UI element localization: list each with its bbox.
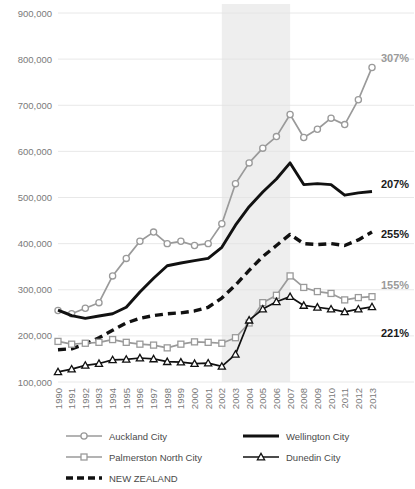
data-point-marker [300,302,307,308]
y-axis-tick-label: 900,000 [18,8,52,19]
circle-marker [81,433,87,439]
data-point-marker [82,362,89,368]
x-axis-tick-label: 2000 [189,388,200,409]
data-point-marker [110,337,116,343]
data-point-marker [257,453,264,459]
data-point-marker [110,273,116,279]
square-marker [192,339,198,345]
circle-marker [123,255,129,261]
circle-marker [96,300,102,306]
x-axis-tick-label: 1990 [53,388,64,409]
triangle-marker [109,356,116,362]
legend-label: Auckland City [109,431,167,442]
square-marker [287,273,293,279]
data-point-marker [164,358,171,364]
triangle-marker [191,360,198,366]
data-point-marker [205,241,211,247]
end-label-dunedin-city: 221% [381,327,409,339]
data-point-marker [369,294,375,300]
triangle-marker [136,354,143,360]
data-point-marker [287,273,293,279]
legend-item[interactable]: NEW ZEALAND [66,473,178,484]
data-series-layer [54,64,375,374]
data-point-marker [205,359,212,365]
triangle-marker [123,356,130,362]
legend-item[interactable]: Palmerston North City [66,452,202,463]
legend-item[interactable]: Wellington City [243,431,349,442]
x-axis-tick-label: 2003 [230,388,241,409]
data-point-marker [96,300,102,306]
data-point-marker [69,341,75,347]
circle-marker [246,160,252,166]
data-point-marker [246,160,252,166]
data-point-marker [136,354,143,360]
triangle-marker [327,306,334,312]
square-marker [328,290,334,296]
x-axis-tick-label: 1995 [121,388,132,409]
data-point-marker [327,306,334,312]
data-point-marker [123,339,129,345]
data-point-marker [150,229,156,235]
x-axis-tick-label: 2012 [353,388,364,409]
end-label-palmerston-north-city: 155% [381,279,409,291]
y-axis-tick-labels: 900,000800,000700,000600,000500,000400,0… [18,8,52,388]
data-point-marker [232,181,238,187]
x-axis-tick-label: 2006 [271,388,282,409]
data-point-marker [314,126,320,132]
data-point-marker [273,134,279,140]
chart-container: 900,000800,000700,000600,000500,000400,0… [0,0,415,489]
data-point-marker [150,355,157,361]
data-point-marker [82,340,88,346]
triangle-marker [82,362,89,368]
legend-item[interactable]: Auckland City [66,431,167,442]
x-axis-tick-label: 1997 [148,388,159,409]
data-point-marker [314,289,320,295]
x-axis-tick-label: 2001 [203,388,214,409]
legend-label: Palmerston North City [109,452,202,463]
legend-item[interactable]: Dunedin City [243,452,341,463]
x-axis-tick-label: 2008 [298,388,309,409]
triangle-marker [341,308,348,314]
x-axis-tick-label: 1991 [66,388,77,409]
data-point-marker [177,359,184,365]
end-label-wellington-city: 207% [381,178,409,190]
data-point-marker [328,115,334,121]
series-line-auckland-city [58,67,372,313]
y-axis-tick-label: 200,000 [18,330,52,341]
data-point-marker [164,345,170,351]
circle-marker [137,238,143,244]
y-axis-tick-label: 100,000 [18,377,52,388]
data-point-marker [355,97,361,103]
data-point-marker [109,356,116,362]
series-end-labels: 307%207%255%155%221% [381,52,409,339]
data-point-marker [178,341,184,347]
data-point-marker [54,368,61,374]
data-point-marker [191,242,197,248]
data-point-marker [164,241,170,247]
square-marker [69,341,75,347]
circle-marker [219,221,225,227]
data-point-marker [260,145,266,151]
data-point-marker [123,356,130,362]
circle-marker [369,64,375,70]
triangle-marker [355,306,362,312]
data-point-marker [191,360,198,366]
x-axis-tick-label: 1994 [107,388,118,409]
legend-label: Dunedin City [286,452,341,463]
circle-marker [205,241,211,247]
triangle-marker [314,304,321,310]
data-point-marker [219,221,225,227]
x-axis-tick-label: 1996 [134,388,145,409]
data-point-marker [123,255,129,261]
x-axis-tick-label: 2011 [339,388,350,408]
triangle-marker [257,453,264,459]
x-axis-tick-label: 2010 [326,388,337,409]
square-marker [96,339,102,345]
y-axis-tick-label: 400,000 [18,238,52,249]
end-label-new-zealand: 255% [381,228,409,240]
data-point-marker [301,284,307,290]
x-axis-tick-labels: 1990199119921993199419951996199719981999… [53,388,378,409]
square-marker [151,342,157,348]
data-point-marker [95,360,102,366]
x-axis-tick-label: 2009 [312,388,323,409]
